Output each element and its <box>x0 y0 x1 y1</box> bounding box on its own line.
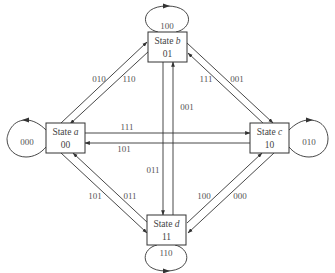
state-d-name: d <box>175 219 180 229</box>
state-a: State a 00 <box>46 123 85 153</box>
edge-c-to-a-label: 101 <box>117 144 131 154</box>
self-loop-a-label: 000 <box>20 137 34 147</box>
state-c-prefix: State <box>257 127 278 137</box>
self-loop-a-arrowhead <box>22 118 29 123</box>
state-c: State c 10 <box>250 123 289 153</box>
edge-b-to-c-label: 001 <box>230 74 244 84</box>
state-a-title: State a <box>52 127 78 137</box>
edge-d-to-c <box>187 153 262 223</box>
self-loop-c-arrowhead <box>306 118 313 123</box>
state-d: State d 11 <box>147 215 186 245</box>
state-b-title: State b <box>154 36 180 46</box>
self-loop-b-arrowhead <box>163 4 170 9</box>
self-loop-a: 000 <box>7 118 46 158</box>
edge-d-to-a <box>73 153 148 223</box>
state-a-code: 00 <box>61 140 71 150</box>
state-b: State b 01 <box>148 32 187 62</box>
edge-a-to-c-label: 111 <box>121 122 134 132</box>
state-b-name: b <box>176 36 181 46</box>
self-loop-d: 110 <box>145 245 187 273</box>
edge-d-to-b-label: 001 <box>180 102 194 112</box>
state-a-prefix: State <box>52 127 73 137</box>
edge-c-to-b <box>188 53 264 124</box>
state-d-title: State d <box>153 219 179 229</box>
edge-a-to-d-label: 101 <box>88 191 102 201</box>
self-loop-c: 010 <box>289 118 328 158</box>
edge-c-to-b-label: 111 <box>200 74 213 84</box>
edge-d-to-c-label: 100 <box>197 191 211 201</box>
state-d-prefix: State <box>153 219 174 229</box>
edge-b-to-a-label: 110 <box>122 74 136 84</box>
edge-d-to-a-label: 011 <box>123 191 136 201</box>
self-loop-d-arrowhead <box>163 269 170 273</box>
edge-a-to-b-label: 010 <box>92 74 106 84</box>
state-c-title: State c <box>257 127 283 137</box>
edge-c-to-d-label: 000 <box>233 191 247 201</box>
self-loop-b-label: 100 <box>160 21 174 31</box>
edge-b-to-a <box>70 51 149 124</box>
state-diagram: 100 000 010 110 010 110 111 001 111 101 … <box>0 0 335 273</box>
state-b-code: 01 <box>163 49 173 59</box>
state-a-name: a <box>74 127 79 137</box>
state-c-code: 10 <box>265 140 275 150</box>
self-loop-d-label: 110 <box>159 248 173 258</box>
self-loop-c-label: 010 <box>302 137 316 147</box>
state-b-prefix: State <box>154 36 175 46</box>
state-d-code: 11 <box>162 232 171 242</box>
edge-b-to-d-label: 011 <box>146 165 159 175</box>
self-loop-b: 100 <box>145 4 188 33</box>
